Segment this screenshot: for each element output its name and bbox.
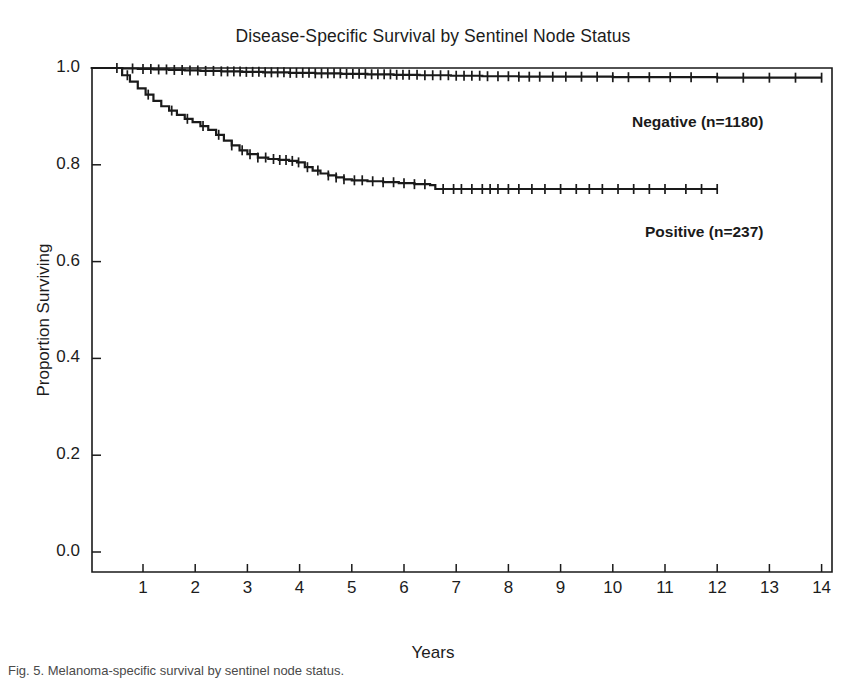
survival-curve-positive xyxy=(91,68,717,189)
x-tick-label-10: 10 xyxy=(588,578,638,598)
x-tick-label-13: 13 xyxy=(744,578,794,598)
kaplan-meier-plot xyxy=(0,0,866,678)
figure-caption-text: Fig. 5. Melanoma-specific survival by se… xyxy=(8,664,344,678)
figure-caption-strip: Fig. 5. Melanoma-specific survival by se… xyxy=(0,664,866,678)
x-tick-label-12: 12 xyxy=(692,578,742,598)
y-tick-label-0.6: 0.6 xyxy=(18,251,80,271)
x-tick-label-7: 7 xyxy=(431,578,481,598)
x-axis-label: Years xyxy=(0,643,866,663)
x-tick-label-3: 3 xyxy=(222,578,272,598)
y-axis-label: Proportion Surviving xyxy=(34,190,54,450)
x-tick-label-2: 2 xyxy=(170,578,220,598)
censor-marks-negative xyxy=(117,63,822,83)
x-tick-label-9: 9 xyxy=(536,578,586,598)
x-tick-label-11: 11 xyxy=(640,578,690,598)
plot-frame xyxy=(92,68,832,572)
x-tick-label-5: 5 xyxy=(327,578,377,598)
x-tick-label-8: 8 xyxy=(483,578,533,598)
x-tick-label-4: 4 xyxy=(275,578,325,598)
x-tick-label-1: 1 xyxy=(118,578,168,598)
y-tick-label-0.2: 0.2 xyxy=(18,444,80,464)
figure-container: Disease-Specific Survival by Sentinel No… xyxy=(0,0,866,678)
series-annotation-positive: Positive (n=237) xyxy=(645,223,763,241)
y-tick-label-0.0: 0.0 xyxy=(18,541,80,561)
x-tick-label-14: 14 xyxy=(797,578,847,598)
series-negative xyxy=(91,63,822,83)
y-tick-label-0.8: 0.8 xyxy=(18,154,80,174)
series-annotation-negative: Negative (n=1180) xyxy=(632,113,763,131)
y-tick-label-1.0: 1.0 xyxy=(18,57,80,77)
series-positive xyxy=(91,68,717,194)
y-axis-ticks xyxy=(92,68,101,552)
y-tick-label-0.4: 0.4 xyxy=(18,347,80,367)
axis-frame-box xyxy=(92,68,832,572)
x-tick-label-6: 6 xyxy=(379,578,429,598)
x-axis-ticks xyxy=(143,564,822,572)
